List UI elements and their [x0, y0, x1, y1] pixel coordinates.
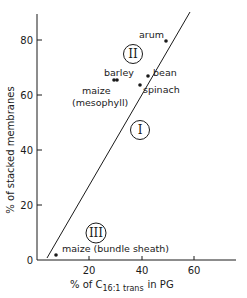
region-ii-label: II	[128, 47, 138, 61]
label-barley: barley	[104, 67, 134, 78]
scatter-chart: 80 60 40 20 0 20 40 60 % of C16:1 transi…	[0, 0, 247, 298]
x-tick-label-60: 60	[188, 265, 201, 276]
y-tick-label-20: 20	[20, 200, 33, 211]
y-tick-label-0: 0	[27, 255, 33, 266]
y-tick-label-80: 80	[20, 35, 33, 46]
y-axis-title: % of stacked membranes	[5, 86, 16, 213]
label-bean: bean	[153, 67, 177, 78]
x-tick-label-20: 20	[83, 265, 96, 276]
region-i-label: I	[138, 123, 143, 137]
trend-line	[47, 12, 190, 258]
label-arum: arum	[139, 29, 164, 40]
y-tick-label-40: 40	[20, 145, 33, 156]
point-arum	[164, 39, 168, 43]
region-iii-label: III	[89, 226, 103, 240]
y-tick-label-60: 60	[20, 90, 33, 101]
point-maize-bundle-sheath	[54, 253, 58, 257]
point-spinach	[138, 83, 142, 87]
x-axis-title: % of C16:1 transin PG	[70, 279, 174, 293]
label-spinach: spinach	[143, 84, 180, 95]
label-maize-mesophyll-2: (mesophyll)	[72, 97, 128, 108]
x-tick-label-40: 40	[136, 265, 149, 276]
label-maize-mesophyll-1: maize	[82, 85, 111, 96]
point-maize-mesophyll	[112, 78, 116, 82]
label-maize-bundle-sheath: maize (bundle sheath)	[62, 243, 169, 254]
point-bean	[146, 74, 150, 78]
